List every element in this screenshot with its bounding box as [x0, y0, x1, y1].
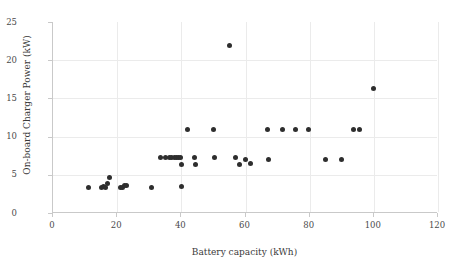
gridline-vertical — [117, 22, 118, 212]
data-point — [233, 155, 238, 160]
data-point — [86, 185, 91, 190]
x-tick-mark — [245, 213, 246, 217]
y-tick-label: 10 — [0, 132, 17, 141]
data-point — [124, 183, 129, 188]
y-tick-label: 15 — [0, 94, 17, 103]
data-point — [179, 184, 184, 189]
x-tick-label: 60 — [225, 221, 265, 230]
x-tick-mark — [180, 213, 181, 217]
data-point — [243, 157, 248, 162]
data-point — [306, 127, 311, 132]
scatter-chart: 0510152025 020406080100120 On-board Char… — [0, 0, 460, 272]
data-point — [248, 161, 253, 166]
x-tick-label: 40 — [160, 221, 200, 230]
y-axis-title: On-board Charger Power (kW) — [22, 15, 32, 195]
gridline-vertical — [310, 22, 311, 212]
data-point — [178, 155, 183, 160]
data-point — [185, 127, 190, 132]
data-point — [339, 157, 344, 162]
data-point — [266, 157, 271, 162]
data-point — [293, 127, 298, 132]
data-point — [212, 155, 217, 160]
data-point — [192, 155, 197, 160]
x-axis-title: Battery capacity (kWh) — [52, 247, 437, 257]
data-point — [227, 43, 232, 48]
data-point — [211, 127, 216, 132]
x-tick-mark — [437, 213, 438, 217]
gridline-vertical — [438, 22, 439, 212]
gridline-vertical — [374, 22, 375, 212]
x-tick-label: 20 — [96, 221, 136, 230]
x-tick-label: 0 — [32, 221, 72, 230]
x-tick-label: 120 — [417, 221, 457, 230]
x-tick-mark — [309, 213, 310, 217]
data-point — [193, 162, 198, 167]
plot-area — [52, 22, 437, 213]
y-tick-label: 25 — [0, 18, 17, 27]
data-point — [323, 157, 328, 162]
x-tick-label: 80 — [289, 221, 329, 230]
y-tick-label: 0 — [0, 209, 17, 218]
x-tick-mark — [116, 213, 117, 217]
data-point — [237, 162, 242, 167]
data-point — [149, 185, 154, 190]
data-point — [371, 86, 376, 91]
data-point — [105, 181, 110, 186]
gridline-vertical — [246, 22, 247, 212]
data-point — [351, 127, 356, 132]
y-tick-label: 5 — [0, 170, 17, 179]
y-tick-label: 20 — [0, 56, 17, 65]
x-tick-mark — [52, 213, 53, 217]
x-tick-label: 100 — [353, 221, 393, 230]
data-point — [179, 162, 184, 167]
x-tick-mark — [373, 213, 374, 217]
data-point — [280, 127, 285, 132]
data-point — [357, 127, 362, 132]
data-point — [265, 127, 270, 132]
data-point — [107, 175, 112, 180]
